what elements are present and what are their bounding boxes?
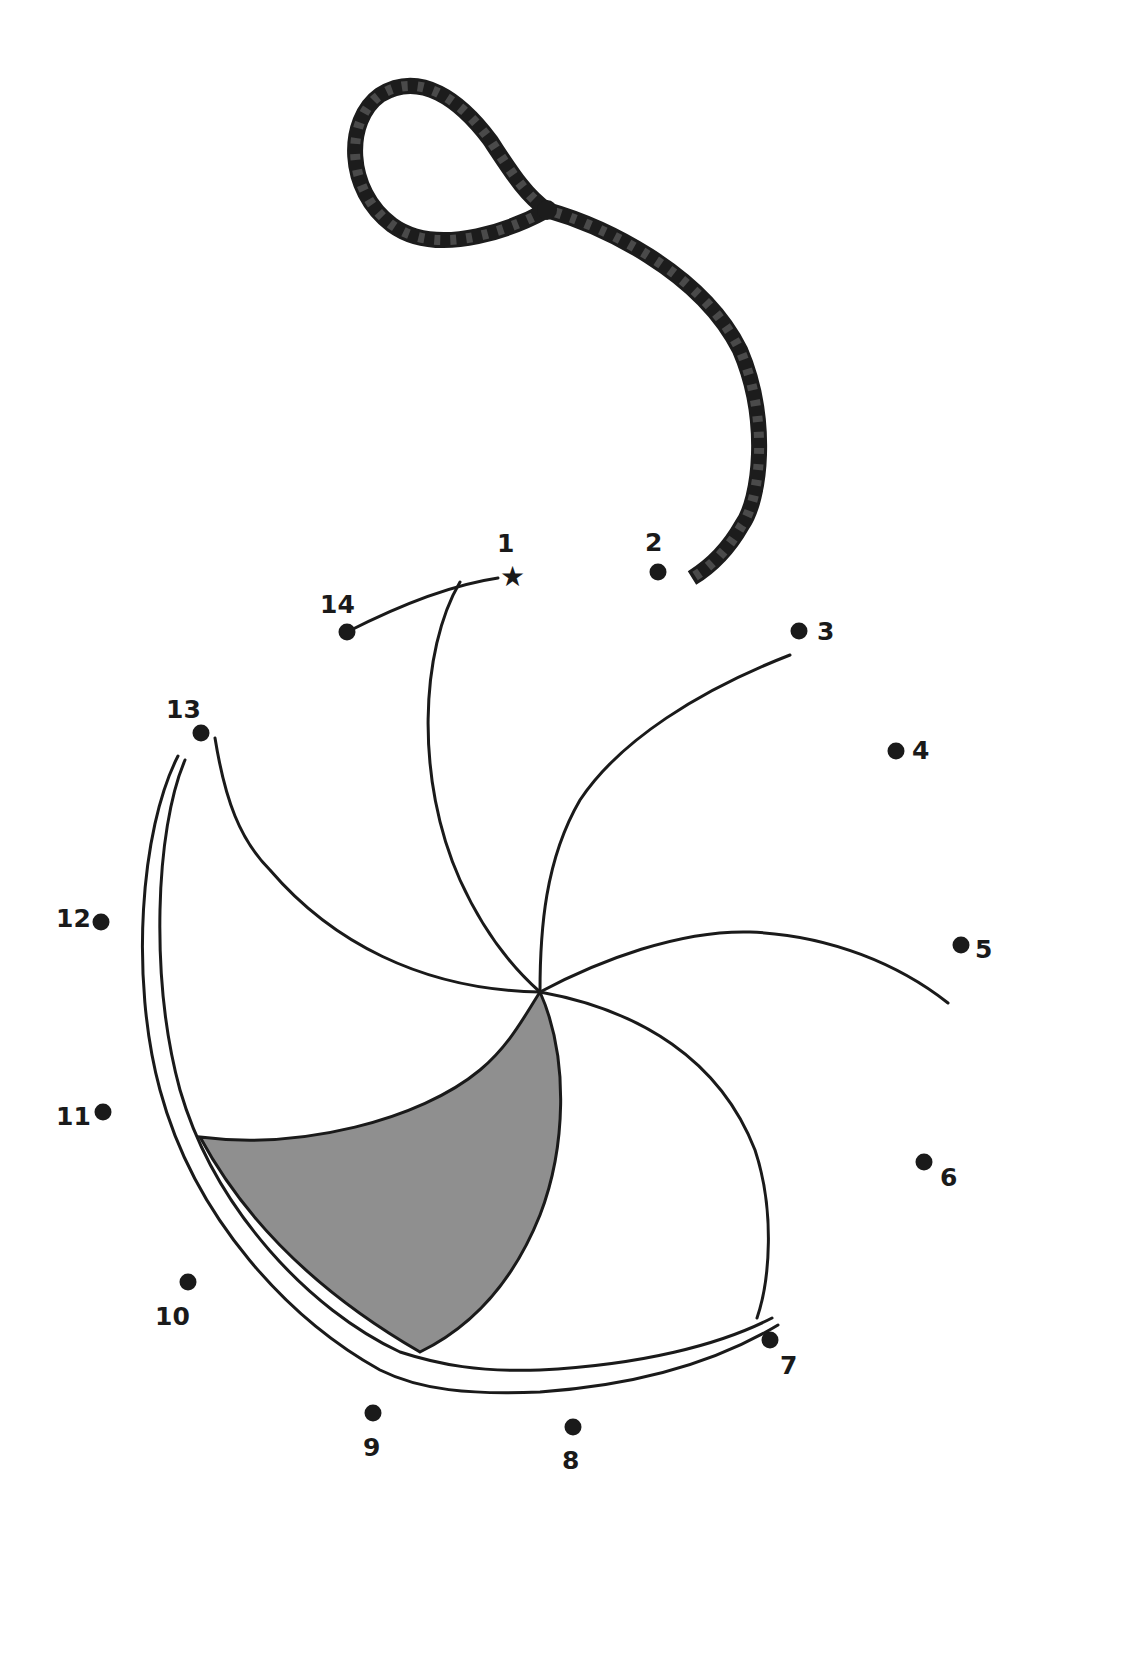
dot-marker	[339, 624, 356, 641]
dot-marker	[193, 725, 210, 742]
dot-label: 14	[320, 590, 355, 619]
dot-to-dot-puzzle: ★1234567891011121314	[0, 0, 1130, 1674]
dot-label: 4	[912, 736, 929, 765]
dot-marker	[916, 1154, 933, 1171]
dot-marker	[365, 1405, 382, 1422]
dot-marker	[791, 623, 808, 640]
dot-label: 5	[975, 935, 992, 964]
star-icon: ★	[500, 560, 525, 593]
dot-marker	[93, 914, 110, 931]
dot-label: 1	[497, 529, 514, 558]
dot-label: 6	[940, 1163, 957, 1192]
dot-label: 3	[817, 617, 834, 646]
dot-label: 10	[155, 1302, 190, 1331]
shaded-panel	[200, 992, 561, 1352]
rope-drawing	[355, 86, 759, 578]
dot-label: 11	[56, 1102, 91, 1131]
dot-label: 12	[56, 904, 91, 933]
dot-label: 8	[562, 1446, 579, 1475]
dot-marker	[762, 1332, 779, 1349]
dot-marker	[888, 743, 905, 760]
dot-label: 13	[166, 695, 201, 724]
dot-label: 2	[645, 528, 662, 557]
dot-label: 7	[780, 1351, 797, 1380]
dot-marker	[565, 1419, 582, 1436]
dot-label: 9	[363, 1433, 380, 1462]
dot-marker	[180, 1274, 197, 1291]
dot-marker	[953, 937, 970, 954]
dot-marker	[95, 1104, 112, 1121]
dot-marker	[650, 564, 667, 581]
rope-knot	[537, 200, 557, 220]
numbered-dots: ★1234567891011121314	[56, 528, 992, 1475]
